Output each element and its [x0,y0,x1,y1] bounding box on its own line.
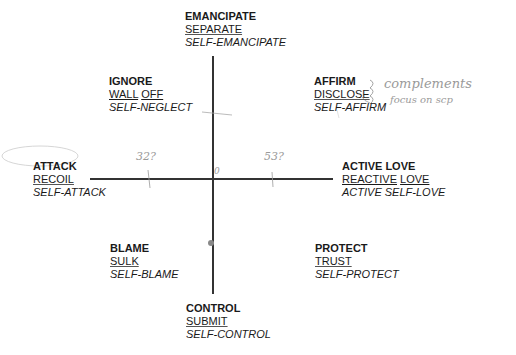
node-protect: PROTECT TRUST SELF-PROTECT [315,242,399,281]
node-ignore: IGNORE WALL OFF SELF-NEGLECT [109,75,192,114]
node-blame: BLAME SULK SELF-BLAME [110,242,178,281]
handwritten-note-complements: complements [384,76,472,91]
node-title: ATTACK [33,160,106,173]
handwritten-mark-left: 32? [136,150,156,163]
node-self: SELF-EMANCIPATE [185,36,286,49]
handwritten-mark-right: 53? [264,150,284,163]
node-self: SELF-NEGLECT [109,101,192,114]
handwritten-mark-origin: 0 [214,166,220,176]
node-attack: ATTACK RECOIL SELF-ATTACK [33,160,106,199]
node-self: SELF-ATTACK [33,186,106,199]
node-title: CONTROL [186,302,271,315]
node-title: BLAME [110,242,178,255]
node-middle: TRUST [315,255,399,268]
node-self: SELF-CONTROL [186,328,271,341]
node-title: IGNORE [109,75,192,88]
node-middle: SEPARATE [185,23,286,36]
node-active-love: ACTIVE LOVE REACTIVE LOVE ACTIVE SELF-LO… [342,160,445,199]
node-title: AFFIRM [314,75,386,88]
node-title: ACTIVE LOVE [342,160,445,173]
node-middle: DISCLOSE [314,88,386,101]
node-title: EMANCIPATE [185,10,286,23]
handwritten-note-focus: focus on scp [390,94,453,105]
node-self: SELF-PROTECT [315,268,399,281]
node-title: PROTECT [315,242,399,255]
node-self: ACTIVE SELF-LOVE [342,186,445,199]
node-middle: REACTIVE LOVE [342,173,445,186]
node-affirm: AFFIRM DISCLOSE SELF-AFFIRM [314,75,386,114]
node-middle: WALL OFF [109,88,192,101]
node-middle: SUBMIT [186,315,271,328]
dot-marker [208,240,214,246]
node-emancipate: EMANCIPATE SEPARATE SELF-EMANCIPATE [185,10,286,49]
node-control: CONTROL SUBMIT SELF-CONTROL [186,302,271,341]
node-middle: RECOIL [33,173,106,186]
node-middle: SULK [110,255,178,268]
node-self: SELF-AFFIRM [314,101,386,114]
node-self: SELF-BLAME [110,268,178,281]
